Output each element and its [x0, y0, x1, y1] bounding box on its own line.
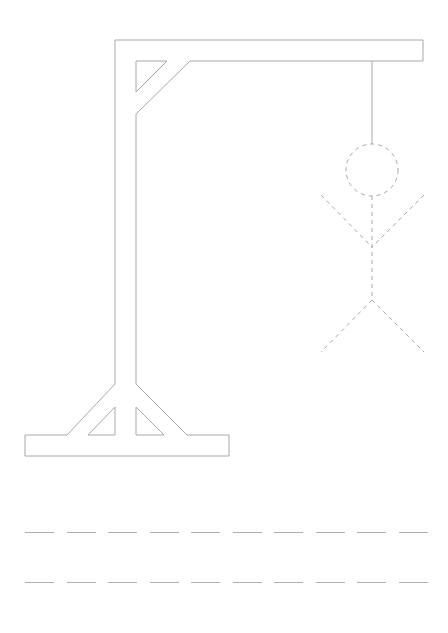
letter-blank	[67, 572, 96, 583]
letter-blank	[108, 522, 137, 533]
gallows-top-brace-triangle	[136, 61, 167, 92]
letter-blank	[191, 572, 220, 583]
letter-blank	[357, 522, 386, 533]
letter-blank	[274, 522, 303, 533]
gallows-base-right-triangle	[136, 407, 164, 435]
figure-head	[346, 144, 398, 196]
letter-blank	[399, 572, 428, 583]
hanged-figure	[321, 144, 424, 352]
letter-blank	[399, 522, 428, 533]
word-row	[0, 572, 448, 582]
letter-blank	[150, 522, 179, 533]
letter-blank	[316, 522, 345, 533]
gallows-frame	[25, 40, 423, 456]
letter-blank	[233, 522, 262, 533]
letter-blank	[357, 572, 386, 583]
letter-blank	[108, 572, 137, 583]
letter-blank	[67, 522, 96, 533]
letter-blank	[191, 522, 220, 533]
figure-left-leg	[321, 300, 372, 352]
letter-blank	[25, 522, 54, 533]
letter-blank	[316, 572, 345, 583]
figure-right-leg	[372, 300, 424, 352]
letter-blank	[25, 572, 54, 583]
hangman-board	[0, 0, 448, 633]
word-row	[0, 522, 448, 532]
gallows-base-left-triangle	[88, 407, 115, 435]
figure-left-arm	[321, 195, 372, 247]
gallows	[25, 40, 423, 456]
figure-right-arm	[372, 195, 424, 247]
letter-blank	[150, 572, 179, 583]
letter-blank	[274, 572, 303, 583]
letter-blank	[233, 572, 262, 583]
